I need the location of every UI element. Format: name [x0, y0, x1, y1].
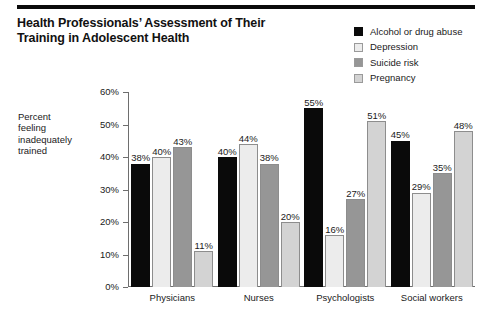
legend-item: Pregnancy: [354, 71, 487, 87]
bar-value-label: 48%: [454, 121, 473, 131]
bar: 16%: [325, 235, 344, 287]
bar-slot: 48%: [454, 92, 473, 287]
bar-value-label: 27%: [346, 189, 365, 199]
y-axis-caption: Percent feeling inadequately trained: [18, 111, 90, 157]
x-axis-category-label: Social workers: [401, 292, 463, 303]
bar: 38%: [260, 164, 279, 288]
x-axis-category-label: Nurses: [244, 292, 274, 303]
bar: 11%: [194, 251, 213, 287]
bar-slot: 11%: [194, 92, 213, 287]
bar-slot: 45%: [391, 92, 410, 287]
bar: 43%: [173, 147, 192, 287]
bar-value-label: 40%: [152, 147, 171, 157]
bar-group: 40%44%38%20%Nurses: [216, 92, 303, 287]
bar-value-label: 20%: [281, 212, 300, 222]
legend-item: Depression: [354, 40, 487, 56]
bar-value-label: 38%: [260, 153, 279, 163]
bar-slot: 38%: [260, 92, 279, 287]
x-axis-category-label: Psychologists: [316, 292, 374, 303]
plot-area: 60%50%40%30%20%10%0% 38%40%43%11%Physici…: [128, 92, 475, 287]
legend-swatch-icon: [354, 43, 363, 52]
bar-value-label: 38%: [131, 153, 150, 163]
bar-slot: 29%: [412, 92, 431, 287]
bar-slot: 55%: [304, 92, 323, 287]
chart-figure: Health Professionals’ Assessment of Thei…: [0, 0, 487, 320]
x-axis-category-label: Physicians: [150, 292, 195, 303]
y-axis-caption-line-2: feeling: [18, 122, 90, 133]
legend-item-label: Suicide risk: [370, 58, 419, 68]
y-axis-tick-mark: [123, 255, 128, 256]
legend-item-label: Alcohol or drug abuse: [370, 27, 462, 37]
bar: 29%: [412, 193, 431, 287]
y-axis-tick-mark: [123, 222, 128, 223]
y-axis-caption-line-4: trained: [18, 145, 90, 156]
bar: 38%: [131, 164, 150, 288]
y-axis-tick-mark: [123, 287, 128, 288]
bar-slot: 16%: [325, 92, 344, 287]
legend-item-label: Pregnancy: [370, 73, 415, 83]
legend-swatch-icon: [354, 74, 363, 83]
bar-value-label: 51%: [367, 111, 386, 121]
y-axis-tick-label: 50%: [100, 120, 119, 130]
bar: 48%: [454, 131, 473, 287]
bar-slot: 40%: [152, 92, 171, 287]
bar-value-label: 29%: [412, 182, 431, 192]
legend-swatch-icon: [354, 27, 363, 36]
y-axis-tick-mark: [123, 92, 128, 93]
bar-slot: 20%: [281, 92, 300, 287]
y-axis-tick-label: 10%: [100, 250, 119, 260]
y-axis-caption-line-3: inadequately: [18, 134, 90, 145]
bar-slot: 51%: [367, 92, 386, 287]
bar-value-label: 44%: [239, 134, 258, 144]
chart-legend: Alcohol or drug abuseDepressionSuicide r…: [354, 24, 487, 86]
y-axis-tick-label: 20%: [100, 217, 119, 227]
bar-slot: 43%: [173, 92, 192, 287]
y-axis-tick-label: 40%: [100, 152, 119, 162]
bar-value-label: 40%: [218, 147, 237, 157]
legend-item: Suicide risk: [354, 55, 487, 71]
bar: 27%: [346, 199, 365, 287]
bar-value-label: 45%: [391, 130, 410, 140]
y-axis-tick-mark: [123, 190, 128, 191]
bar: 40%: [152, 157, 171, 287]
legend-item-label: Depression: [370, 42, 418, 52]
y-axis-tick-mark: [123, 125, 128, 126]
bar: 55%: [304, 108, 323, 287]
bar-slot: 35%: [433, 92, 452, 287]
top-rule-divider: [17, 5, 475, 9]
y-axis-tick-label: 60%: [100, 87, 119, 97]
bar: 40%: [218, 157, 237, 287]
bar-groups: 38%40%43%11%Physicians40%44%38%20%Nurses…: [129, 92, 475, 287]
y-axis-caption-line-1: Percent: [18, 111, 90, 122]
bar: 44%: [239, 144, 258, 287]
bar: 51%: [367, 121, 386, 287]
bar-slot: 38%: [131, 92, 150, 287]
bar-value-label: 43%: [173, 137, 192, 147]
y-axis-tick-label: 0%: [105, 282, 119, 292]
bar-value-label: 11%: [195, 241, 213, 251]
bar-group: 45%29%35%48%Social workers: [389, 92, 476, 287]
bar-group: 38%40%43%11%Physicians: [129, 92, 216, 287]
bar: 35%: [433, 173, 452, 287]
chart-title-line-2: Training in Adolescent Health: [17, 31, 347, 46]
legend-item: Alcohol or drug abuse: [354, 24, 487, 40]
bar: 45%: [391, 141, 410, 287]
legend-swatch-icon: [354, 58, 363, 67]
bar-slot: 27%: [346, 92, 365, 287]
bar-slot: 40%: [218, 92, 237, 287]
bar-value-label: 55%: [304, 98, 323, 108]
bar: 20%: [281, 222, 300, 287]
bar-slot: 44%: [239, 92, 258, 287]
chart-title: Health Professionals’ Assessment of Thei…: [17, 16, 347, 46]
y-axis-tick-label: 30%: [100, 185, 119, 195]
bar-group: 55%16%27%51%Psychologists: [302, 92, 389, 287]
bar-value-label: 16%: [325, 225, 344, 235]
chart-title-line-1: Health Professionals’ Assessment of Thei…: [17, 16, 347, 31]
y-axis-tick-mark: [123, 157, 128, 158]
bar-value-label: 35%: [433, 163, 452, 173]
